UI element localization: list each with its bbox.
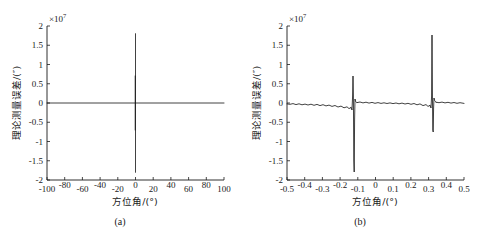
panel-a-plot: ×107 2 1.5 1 0.5 xyxy=(0,0,238,231)
svg-text:0.3: 0.3 xyxy=(423,184,435,194)
svg-text:0.5: 0.5 xyxy=(32,79,44,89)
svg-text:2: 2 xyxy=(39,21,44,31)
svg-text:0.5: 0.5 xyxy=(272,79,284,89)
svg-text:-1.5: -1.5 xyxy=(269,156,284,166)
panel-a-y-axis-title: 理论测量误差/(″) xyxy=(11,66,22,140)
svg-text:-0.1: -0.1 xyxy=(351,184,365,194)
panel-b-exponent-label: ×107 xyxy=(289,12,307,24)
svg-text:-20: -20 xyxy=(112,184,124,194)
panel-a-exponent-label: ×107 xyxy=(49,12,67,24)
svg-text:0.1: 0.1 xyxy=(388,184,399,194)
svg-text:-0.5: -0.5 xyxy=(29,117,44,127)
svg-text:-40: -40 xyxy=(94,180,106,190)
svg-text:0: 0 xyxy=(279,98,284,108)
panel-a-x-axis-title: 方位角/(°) xyxy=(112,196,157,207)
panel-a-x-tick-labels: -100 -80 -60 -40 -20 0 20 40 60 80 100 xyxy=(39,180,232,194)
svg-text:-80: -80 xyxy=(59,180,71,190)
panel-b-plot: ×107 2 1.5 1 0.5 0 -0.5 - xyxy=(239,0,477,231)
svg-text:-1.5: -1.5 xyxy=(29,156,44,166)
panel-b-baseline-left xyxy=(287,104,351,109)
svg-text:-0.5: -0.5 xyxy=(280,184,295,194)
panel-b-right-spike xyxy=(430,35,436,132)
svg-text:-1: -1 xyxy=(276,137,284,147)
panel-b-y-tick-labels: 2 1.5 1 0.5 0 -0.5 -1 -1.5 -2 xyxy=(269,21,284,185)
panel-b: ×107 2 1.5 1 0.5 0 -0.5 - xyxy=(239,0,477,231)
panel-b-x-axis-title: 方位角/(°) xyxy=(352,196,397,207)
svg-text:1: 1 xyxy=(39,60,44,70)
panel-b-y-axis-title: 理论测量误差/(″) xyxy=(251,66,262,140)
svg-text:0.2: 0.2 xyxy=(405,180,416,190)
svg-text:80: 80 xyxy=(202,180,212,190)
panel-a-caption: (a) xyxy=(114,216,125,228)
svg-text:0: 0 xyxy=(373,180,378,190)
panel-b-baseline-right xyxy=(436,102,464,103)
svg-text:60: 60 xyxy=(184,184,194,194)
svg-text:0.4: 0.4 xyxy=(441,180,453,190)
svg-text:-1: -1 xyxy=(36,137,44,147)
figure-container: ×107 2 1.5 1 0.5 xyxy=(0,0,477,231)
panel-b-baseline-mid xyxy=(357,102,430,106)
svg-text:-0.2: -0.2 xyxy=(333,180,347,190)
svg-text:2: 2 xyxy=(279,21,284,31)
svg-text:-0.4: -0.4 xyxy=(298,180,313,190)
svg-text:100: 100 xyxy=(217,184,231,194)
svg-text:0.5: 0.5 xyxy=(458,184,470,194)
svg-text:1: 1 xyxy=(279,60,284,70)
svg-text:0: 0 xyxy=(133,180,138,190)
panel-b-caption: (b) xyxy=(354,216,366,228)
panel-b-left-spike xyxy=(351,76,357,172)
svg-text:-0.5: -0.5 xyxy=(269,117,284,127)
svg-text:40: 40 xyxy=(166,180,176,190)
panel-a: ×107 2 1.5 1 0.5 xyxy=(0,0,238,231)
svg-text:0: 0 xyxy=(39,98,44,108)
panel-a-y-tick-labels: 2 1.5 1 0.5 0 -0.5 -1 -1.5 -2 xyxy=(29,21,44,185)
panel-b-y-ticks xyxy=(287,26,290,180)
svg-text:20: 20 xyxy=(149,184,159,194)
svg-text:1.5: 1.5 xyxy=(272,40,284,50)
svg-text:-100: -100 xyxy=(39,184,56,194)
svg-text:-0.3: -0.3 xyxy=(315,184,330,194)
svg-text:1.5: 1.5 xyxy=(32,40,44,50)
svg-text:-60: -60 xyxy=(76,184,88,194)
panel-b-x-tick-labels: -0.5 -0.4 -0.3 -0.2 -0.1 0 0.1 0.2 0.3 0… xyxy=(280,180,470,194)
